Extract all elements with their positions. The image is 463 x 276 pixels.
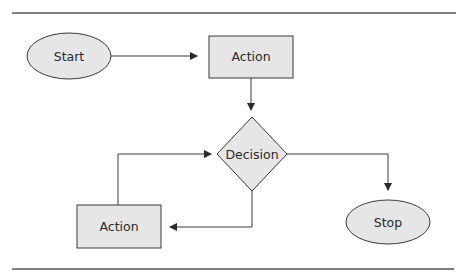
start-label: Start <box>54 49 85 64</box>
action-top-label: Action <box>231 49 270 64</box>
decision-label: Decision <box>225 147 278 162</box>
decision-node[interactable]: Decision <box>217 117 287 191</box>
flowchart-canvas: Start Action Decision Action Stop <box>0 0 463 276</box>
action-bottom-node[interactable]: Action <box>77 205 161 248</box>
edge-decision-to-action-bottom <box>170 191 252 227</box>
edge-decision-to-stop <box>287 154 388 190</box>
edge-action-bottom-to-decision <box>118 154 211 205</box>
action-top-node[interactable]: Action <box>209 36 293 78</box>
action-bottom-label: Action <box>99 219 138 234</box>
stop-node[interactable]: Stop <box>346 200 430 244</box>
start-node[interactable]: Start <box>27 33 111 79</box>
stop-label: Stop <box>374 215 402 230</box>
